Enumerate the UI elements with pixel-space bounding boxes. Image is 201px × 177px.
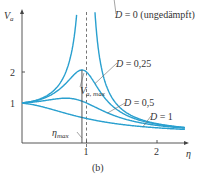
y-axis-arrow bbox=[20, 9, 24, 14]
series-label: D = 0 (ungedämpft) bbox=[114, 9, 195, 21]
chart-caption: (b) bbox=[92, 162, 104, 174]
series-line-D0 bbox=[22, 15, 77, 103]
legend-leader-line bbox=[95, 63, 117, 84]
y-tick-label: 2 bbox=[10, 67, 15, 78]
x-axis-arrow bbox=[184, 141, 189, 145]
x-tick-label: 2 bbox=[154, 146, 159, 157]
series-label: D = 0,5 bbox=[123, 97, 154, 108]
resonance-chart: Va 1212 D = 0 (ungedämpft)D = 0,25D = 0,… bbox=[0, 0, 201, 177]
x-axis-label: η bbox=[186, 148, 191, 159]
legend-leader-line bbox=[90, 0, 116, 14]
series-label: D = 1 bbox=[149, 111, 173, 122]
y-tick-label: 1 bbox=[10, 98, 15, 109]
x-tick-label: 1 bbox=[84, 146, 89, 157]
etamax-label: ηmax bbox=[52, 127, 70, 140]
y-axis-label: Va bbox=[4, 10, 14, 23]
etamax-leader-line bbox=[77, 132, 82, 138]
vmax-label: Va, max bbox=[80, 85, 106, 98]
series-label: D = 0,25 bbox=[115, 58, 151, 69]
